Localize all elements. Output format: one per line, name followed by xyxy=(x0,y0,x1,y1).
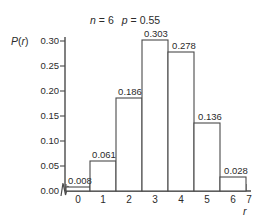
bar-r5[interactable] xyxy=(194,123,220,191)
bar-r6[interactable] xyxy=(220,177,246,191)
x-tick-label: 3 xyxy=(152,194,158,205)
y-tick-label: 0.05 xyxy=(41,160,60,171)
bar-r2[interactable] xyxy=(116,98,142,191)
title-n-value: = 6 xyxy=(99,14,114,26)
y-axis-tick-labels: 0.00 0.05 0.10 0.15 0.20 0.25 0.30 xyxy=(41,35,60,196)
y-tick-label: 0.00 xyxy=(41,185,60,196)
bar-r4[interactable] xyxy=(168,52,194,191)
data-label-r1: 0.061 xyxy=(92,149,116,160)
y-axis-label: P(r) xyxy=(11,35,29,47)
x-axis-label: r xyxy=(243,205,247,217)
chart-canvas: n= 6p= 0.55 P(r) 0.00 0.05 0.10 0.15 0.2… xyxy=(0,0,269,218)
x-tick-label: 7 xyxy=(246,194,252,205)
title-p-symbol: p xyxy=(121,14,128,26)
data-label-r5: 0.136 xyxy=(198,111,222,122)
title-p-value: = 0.55 xyxy=(131,14,161,26)
y-tick-label: 0.25 xyxy=(41,60,60,71)
binomial-distribution-chart: n= 6p= 0.55 P(r) 0.00 0.05 0.10 0.15 0.2… xyxy=(0,0,269,218)
x-axis-tick-labels: 0 1 2 3 4 5 6 7 xyxy=(75,194,252,205)
y-tick-label: 0.10 xyxy=(41,135,60,146)
svg-text:n= 6p= 0.55: n= 6p= 0.55 xyxy=(90,14,160,26)
x-tick-label: 4 xyxy=(178,194,184,205)
data-label-r6: 0.028 xyxy=(224,165,248,176)
y-axis xyxy=(60,37,65,191)
title-n-symbol: n xyxy=(90,14,96,26)
y-tick-label: 0.20 xyxy=(41,85,60,96)
svg-text:P(r): P(r) xyxy=(11,35,29,47)
x-tick-label: 6 xyxy=(230,194,236,205)
chart-title: n= 6p= 0.55 xyxy=(90,14,160,26)
x-tick-label: 2 xyxy=(126,194,132,205)
y-label-close-paren: ) xyxy=(25,35,29,47)
x-tick-label: 0 xyxy=(75,194,81,205)
bar-r0[interactable] xyxy=(66,187,90,191)
y-tick-label: 0.30 xyxy=(41,35,60,46)
bar-r1[interactable] xyxy=(90,161,116,191)
x-tick-label: 1 xyxy=(100,194,106,205)
y-tick-label: 0.15 xyxy=(41,110,60,121)
data-label-r0: 0.008 xyxy=(68,175,92,186)
data-label-r4: 0.278 xyxy=(172,40,196,51)
data-label-r2: 0.186 xyxy=(118,86,142,97)
x-tick-label: 5 xyxy=(204,194,210,205)
y-label-p: P xyxy=(11,35,18,47)
bar-r3[interactable] xyxy=(142,40,168,191)
data-label-r3: 0.303 xyxy=(144,28,168,39)
